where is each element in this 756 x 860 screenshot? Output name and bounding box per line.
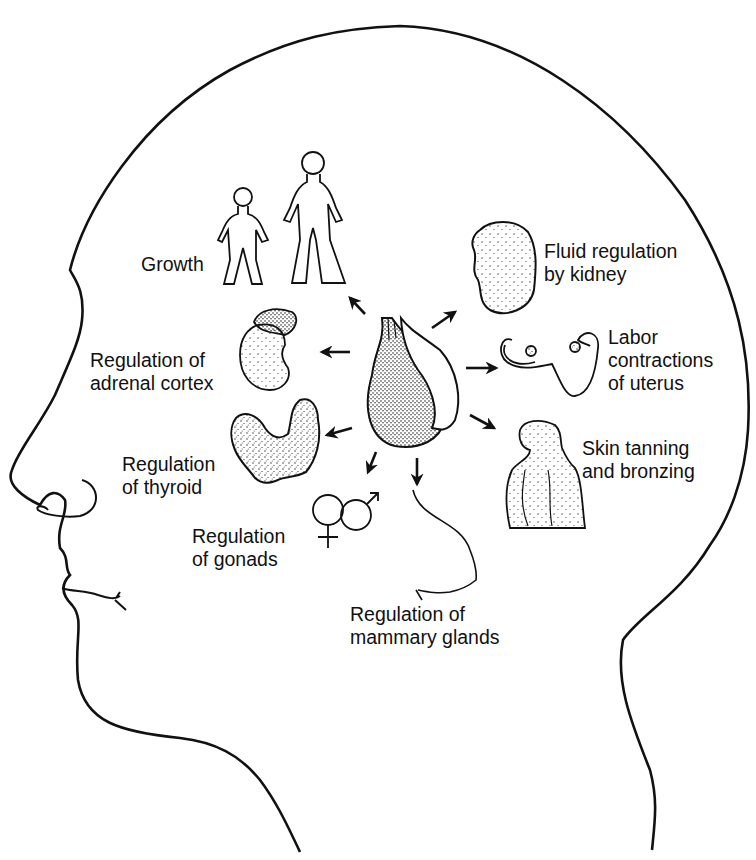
label-gonads-line-1: Regulation — [192, 525, 285, 548]
label-mammary-line-2: mammary glands — [350, 626, 500, 649]
label-fluid-regulation: Fluid regulation by kidney — [544, 240, 677, 286]
label-gonads-line-2: of gonads — [192, 548, 285, 571]
label-labor-line-2: contractions — [608, 349, 713, 372]
thyroid-icon — [231, 399, 319, 483]
label-skin-line-1: Skin tanning — [582, 437, 695, 460]
label-mammary-glands: Regulation of mammary glands — [350, 603, 500, 649]
label-gonads: Regulation of gonads — [192, 525, 285, 571]
label-labor-contractions: Labor contractions of uterus — [608, 326, 713, 395]
adrenal-kidney-icon — [240, 309, 296, 390]
man-back-icon — [506, 421, 585, 528]
label-fluid-line-1: Fluid regulation — [544, 240, 677, 263]
label-adrenal-line-1: Regulation of — [90, 349, 214, 372]
growth-figures-icon — [218, 152, 345, 284]
label-labor-line-1: Labor — [608, 326, 713, 349]
pituitary-gland-icon — [368, 318, 458, 447]
label-thyroid-line-1: Regulation — [122, 453, 215, 476]
label-adrenal-cortex: Regulation of adrenal cortex — [90, 349, 214, 395]
label-growth: Growth — [141, 253, 204, 276]
label-skin-tanning: Skin tanning and bronzing — [582, 437, 695, 483]
label-thyroid-line-2: of thyroid — [122, 476, 215, 499]
label-labor-line-3: of uterus — [608, 372, 713, 395]
pituitary-diagram: Growth Fluid regulation by kidney Regula… — [0, 0, 756, 860]
breast-icon — [413, 490, 476, 600]
lips — [62, 588, 126, 610]
label-mammary-line-1: Regulation of — [350, 603, 500, 626]
uterus-icon — [501, 333, 598, 396]
kidney-icon — [472, 222, 535, 313]
label-adrenal-line-2: adrenal cortex — [90, 372, 214, 395]
label-skin-line-2: and bronzing — [582, 460, 695, 483]
gonad-symbols-icon — [313, 493, 378, 548]
label-thyroid: Regulation of thyroid — [122, 453, 215, 499]
label-fluid-line-2: by kidney — [544, 263, 677, 286]
diagram-artwork — [0, 0, 756, 860]
label-growth-line-1: Growth — [141, 253, 204, 276]
